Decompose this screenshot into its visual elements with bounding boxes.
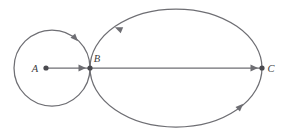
point-label-b: B <box>94 53 101 64</box>
point-label-a: A <box>31 63 39 74</box>
figure-canvas: A B C <box>0 0 286 135</box>
arrowhead-toward-c <box>251 65 259 72</box>
point-dot-b <box>87 65 92 70</box>
geometry-figure: A B C <box>0 0 286 135</box>
point-dot-c <box>259 65 264 70</box>
arrowhead-toward-b <box>79 65 87 72</box>
point-dot-a <box>43 65 48 70</box>
point-label-c: C <box>267 63 275 74</box>
